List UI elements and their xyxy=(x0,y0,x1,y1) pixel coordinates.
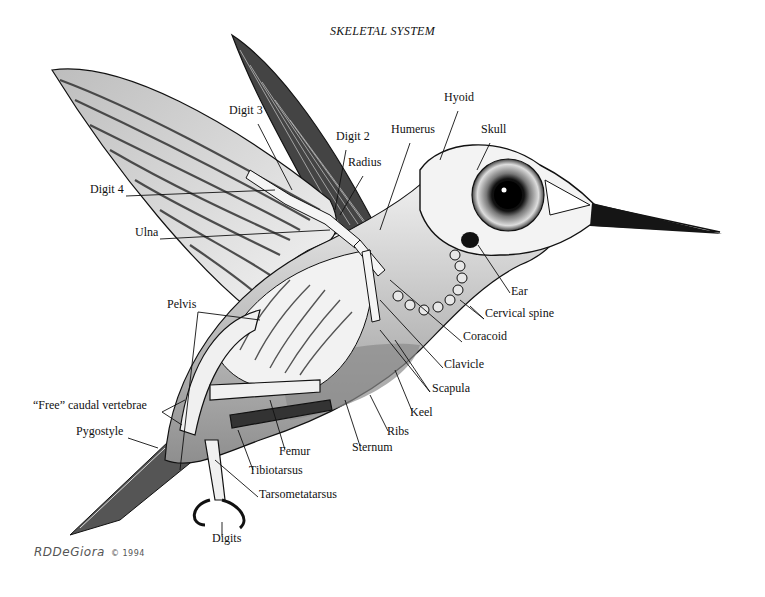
label-skull: Skull xyxy=(481,122,506,136)
artist-signature: RDDeGiora© 1994 xyxy=(34,545,145,559)
label-ulna: Ulna xyxy=(135,225,158,239)
label-tibiotarsus: Tibiotarsus xyxy=(249,463,303,477)
artist-name: RDDeGiora xyxy=(34,545,105,559)
label-radius: Radius xyxy=(348,155,381,169)
label-coracoid: Coracoid xyxy=(463,329,507,343)
label-tarsometatarsus: Tarsometatarsus xyxy=(259,487,337,501)
label-pygostyle: Pygostyle xyxy=(76,424,123,438)
label-digit-2: Digit 2 xyxy=(336,129,370,143)
label-femur: Femur xyxy=(279,444,310,458)
copyright-year: © 1994 xyxy=(111,549,145,558)
label-hyoid: Hyoid xyxy=(444,90,474,104)
label-ribs: Ribs xyxy=(387,424,409,438)
leader-line-pygostyle xyxy=(128,438,158,448)
label-digit-4: Digit 4 xyxy=(90,182,124,196)
label-cervical-spine: Cervical spine xyxy=(485,306,554,320)
label-clavicle: Clavicle xyxy=(444,357,484,371)
label-humerus: Humerus xyxy=(391,122,435,136)
label-free-caudal-vertebrae: “Free” caudal vertebrae xyxy=(33,398,147,412)
label-digits: Digits xyxy=(212,531,241,545)
leader-line-extra xyxy=(460,300,484,319)
skeletal-diagram: SKELETAL SYSTEM Digit 3Digit 2RadiusDigi… xyxy=(0,0,765,597)
label-ear: Ear xyxy=(511,284,528,298)
label-keel: Keel xyxy=(410,405,433,419)
hummingbird-illustration xyxy=(0,0,765,597)
label-pelvis: Pelvis xyxy=(167,297,196,311)
diagram-title: SKELETAL SYSTEM xyxy=(0,24,765,39)
leader-line-ribs xyxy=(370,395,388,431)
label-digit-3: Digit 3 xyxy=(229,103,263,117)
head xyxy=(420,145,722,255)
label-sternum: Sternum xyxy=(352,440,393,454)
label-scapula: Scapula xyxy=(432,381,470,395)
